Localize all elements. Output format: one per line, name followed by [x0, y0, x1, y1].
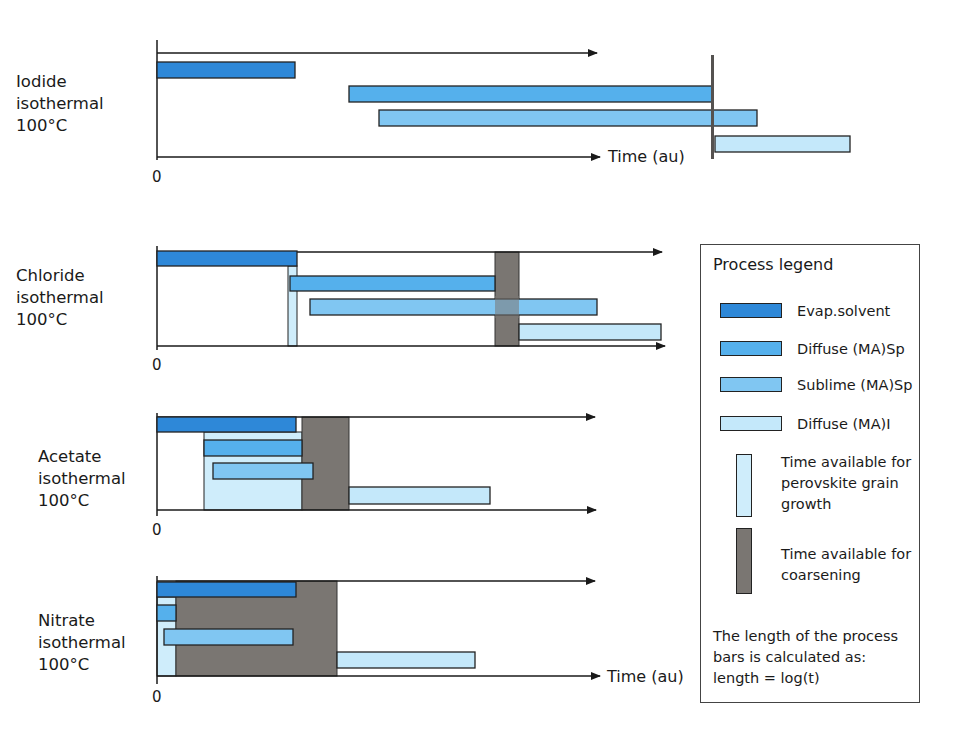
legend-label: Time available for coarsening: [781, 544, 911, 586]
swatch-coarsening: [736, 528, 752, 594]
legend-note-line: bars is calculated as:: [713, 647, 898, 668]
panel-iodide: [157, 40, 850, 160]
legend-label: Sublime (MA)Sp: [797, 375, 912, 395]
bar-sublime-ma-sp: [379, 110, 757, 126]
axis-zero-label: 0: [152, 688, 162, 706]
panel-label-iodide: Iodide isothermal 100°C: [16, 71, 104, 137]
swatch-evap-solvent: [720, 303, 782, 318]
legend-note-line: length = log(t): [713, 668, 898, 689]
panel-chloride: [157, 246, 665, 350]
label-line: isothermal: [16, 287, 104, 309]
bar-evap-solvent: [157, 417, 296, 432]
panel-nitrate: [157, 576, 600, 684]
label-line: isothermal: [38, 468, 126, 490]
bar-sublime-ma-sp: [164, 629, 293, 645]
process-legend: Process legend Evap.solvent Diffuse (MA)…: [700, 244, 920, 703]
label-line: 100°C: [38, 490, 126, 512]
bar-diffuse-ma-sp: [349, 86, 712, 102]
label-line: 100°C: [16, 115, 104, 137]
swatch-grain-growth: [736, 454, 752, 517]
legend-title: Process legend: [713, 255, 833, 274]
legend-label-line: perovskite grain: [781, 473, 911, 494]
panel-label-chloride: Chloride isothermal 100°C: [16, 265, 104, 331]
bar-evap-solvent: [157, 251, 297, 266]
label-line: Chloride: [16, 265, 104, 287]
label-line: Nitrate: [38, 610, 126, 632]
label-line: 100°C: [16, 309, 104, 331]
marker-line: [711, 55, 714, 159]
legend-note: The length of the process bars is calcul…: [713, 626, 898, 689]
axis-zero-label: 0: [152, 521, 162, 539]
legend-label: Diffuse (MA)Sp: [797, 339, 905, 359]
legend-label: Evap.solvent: [797, 301, 890, 321]
bar-sublime-ma-sp: [310, 299, 597, 315]
axis-zero-label: 0: [152, 356, 162, 374]
legend-label: Time available for perovskite grain grow…: [781, 452, 911, 515]
bar-diffuse-ma-i: [519, 324, 661, 340]
bar-evap-solvent: [157, 62, 295, 78]
bar-diffuse-ma-sp: [290, 276, 495, 291]
swatch-sublime-ma-sp: [720, 377, 782, 392]
legend-label-line: Time available for: [781, 452, 911, 473]
time-axis-label: Time (au): [607, 667, 684, 686]
bar-diffuse-ma-i: [337, 652, 475, 668]
legend-label-line: Time available for: [781, 544, 911, 565]
panel-acetate: [157, 413, 596, 516]
bar-evap-solvent: [157, 582, 296, 597]
label-line: isothermal: [38, 632, 126, 654]
bar-diffuse-ma-i: [715, 136, 850, 152]
label-line: Acetate: [38, 446, 126, 468]
bar-diffuse-ma-i: [349, 487, 490, 504]
label-line: Iodide: [16, 71, 104, 93]
axis-zero-label: 0: [152, 168, 162, 186]
legend-label-line: coarsening: [781, 565, 911, 586]
bar-diffuse-ma-sp: [204, 440, 302, 456]
panel-label-nitrate: Nitrate isothermal 100°C: [38, 610, 126, 676]
bar-sublime-ma-sp: [213, 463, 313, 479]
legend-note-line: The length of the process: [713, 626, 898, 647]
time-axis-label: Time (au): [608, 147, 685, 166]
legend-label-line: growth: [781, 494, 911, 515]
label-line: 100°C: [38, 654, 126, 676]
bar-diffuse-ma-sp: [157, 605, 176, 621]
swatch-diffuse-ma-sp: [720, 341, 782, 356]
panel-label-acetate: Acetate isothermal 100°C: [38, 446, 126, 512]
swatch-diffuse-ma-i: [720, 416, 782, 431]
label-line: isothermal: [16, 93, 104, 115]
coarsening-overlay: [495, 296, 519, 318]
legend-label: Diffuse (MA)I: [797, 414, 890, 434]
